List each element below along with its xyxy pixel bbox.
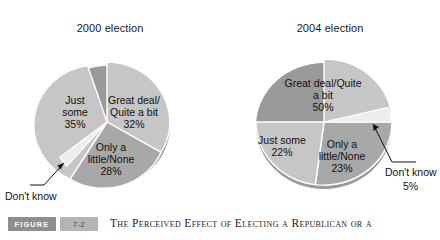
pie-svg-2000: Great deal/ Quite a bit 32% Only a littl… [0, 34, 220, 204]
svg-text:23%: 23% [331, 162, 352, 174]
svg-text:Just some: Just some [258, 134, 306, 146]
slice-label-just-some-2000: Just some 35% [62, 94, 88, 130]
svg-text:22%: 22% [271, 146, 292, 158]
svg-text:32%: 32% [123, 118, 144, 130]
svg-text:Just: Just [65, 94, 84, 106]
svg-text:28%: 28% [100, 165, 121, 177]
svg-text:some: some [62, 106, 88, 118]
pie-chart-2000-election: 2000 election Great deal/ [0, 0, 220, 208]
svg-text:little/None: little/None [88, 153, 135, 165]
svg-text:Only a: Only a [96, 141, 127, 153]
figure-container: 2000 election Great deal/ [0, 0, 440, 240]
svg-text:little/None: little/None [319, 150, 366, 162]
figure-caption-text: The Perceived Effect of Electing a Repub… [110, 215, 436, 231]
figure-number: 7-2 [60, 217, 98, 231]
callout-label-dont-know-2000: Don't know [5, 190, 57, 202]
svg-text:50%: 50% [312, 101, 333, 113]
svg-text:Quite a bit: Quite a bit [110, 106, 158, 118]
svg-text:Great deal/: Great deal/ [108, 94, 160, 106]
chart-title-2004: 2004 election [220, 22, 440, 34]
callout-pct-dont-know-2004: 5% [403, 180, 418, 192]
chart-title-2000: 2000 election [0, 22, 220, 34]
svg-text:Only a: Only a [327, 138, 358, 150]
svg-text:a bit: a bit [313, 89, 333, 101]
callout-dont-know-2000 [30, 163, 64, 185]
svg-text:35%: 35% [64, 118, 85, 130]
pie-svg-2004: Great deal/Quite a bit 50% Only a little… [220, 34, 440, 204]
figure-caption-bar: FIGURE 7-2 The Perceived Effect of Elect… [0, 214, 440, 240]
callout-label-dont-know-2004: Don't know [385, 166, 437, 178]
figure-tag-label: FIGURE [8, 217, 56, 231]
pie-chart-2004-election: 2004 election Great deal/Quite a bit [220, 0, 440, 208]
svg-text:Great deal/Quite: Great deal/Quite [284, 77, 361, 89]
